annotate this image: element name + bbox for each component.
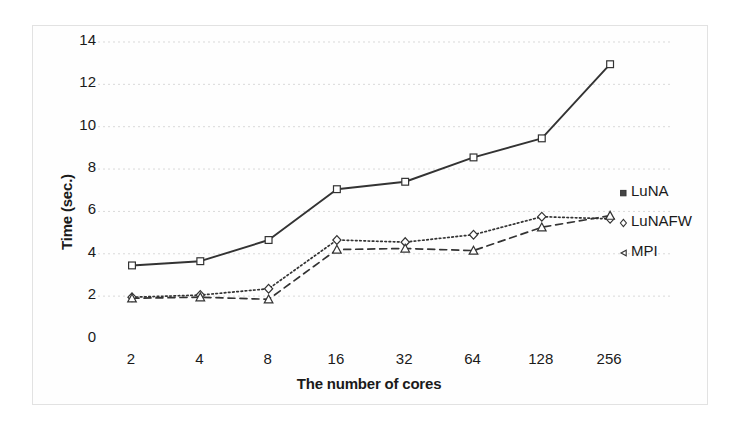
data-point-lunafw-8 [265,284,273,293]
y-tick-label: 4 [66,243,96,260]
line-chart-canvas [33,26,709,406]
data-point-luna-32 [402,178,409,185]
x-tick-label: 64 [451,350,495,367]
data-point-luna-8 [265,237,272,244]
data-point-luna-4 [197,258,204,265]
data-point-luna-128 [538,135,545,142]
y-tick-label: 10 [66,116,96,133]
legend-item-label: LuNAFW [631,213,692,228]
y-tick-label: 12 [66,73,96,90]
x-tick-label: 2 [109,350,153,367]
square-marker-icon [618,185,630,197]
diamond-marker-icon [618,215,630,227]
x-tick-label: 8 [246,350,290,367]
chart-plot-frame [32,25,708,405]
data-point-luna-16 [334,186,341,193]
legend-item-lunafw[interactable]: LuNAFW [618,213,692,228]
y-tick-label: 6 [66,200,96,217]
legend-marker-shape [620,219,626,226]
x-tick-label: 16 [314,350,358,367]
data-point-mpi-256 [606,211,615,219]
x-tick-label: 128 [519,350,563,367]
legend-item-label: MPI [631,243,658,258]
data-point-lunafw-64 [469,230,477,239]
data-point-luna-2 [129,262,136,269]
x-tick-label: 256 [587,350,631,367]
x-tick-label: 4 [177,350,221,367]
y-tick-label: 0 [66,328,96,345]
data-point-lunafw-16 [333,236,341,245]
data-point-lunafw-128 [538,212,546,221]
triangle-marker-icon [618,245,630,257]
y-tick-label: 8 [66,158,96,175]
data-point-luna-256 [607,61,614,68]
gridlines-group [93,42,673,296]
legend-item-mpi[interactable]: MPI [618,243,658,258]
series-markers-group [128,61,615,303]
legend-marker-shape [621,250,626,256]
y-tick-label: 14 [66,31,96,48]
x-tick-label: 32 [382,350,426,367]
series-line-luna [132,64,610,265]
y-tick-label: 2 [66,285,96,302]
data-point-mpi-16 [333,245,342,253]
x-axis-title: The number of cores [0,375,738,392]
data-point-luna-64 [470,154,477,161]
legend-item-label: LuNA [631,183,669,198]
legend-marker-shape [621,190,626,195]
legend-item-luna[interactable]: LuNA [618,183,669,198]
chart-figure: Time (sec.) The number of cores 02468101… [0,0,738,435]
